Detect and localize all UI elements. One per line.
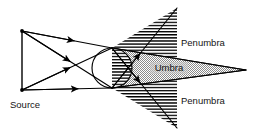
penumbra-bottom-label: Penumbra: [181, 95, 226, 106]
light-source: [20, 29, 24, 92]
penumbra-top-label: Penumbra: [181, 37, 226, 48]
ray-bottom-to-lower-tangent-arrow: [22, 89, 78, 90]
shadow-diagram-figure: Source Penumbra Penumbra Umbra: [0, 0, 255, 136]
umbra-label: Umbra: [155, 62, 184, 73]
ray-bottom-to-upper-tangent-arrow: [22, 68, 70, 90]
source-label: Source: [10, 99, 40, 110]
shadow-diagram-canvas: Source Penumbra Penumbra Umbra: [0, 0, 255, 136]
